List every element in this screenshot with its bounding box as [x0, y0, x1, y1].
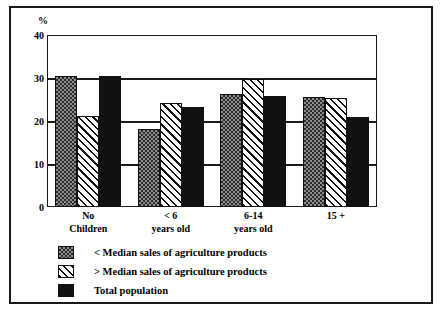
plot-wrapper: % 403020100 NoChildren< 6years old6-14ye… — [0, 0, 443, 319]
legend-item: < Median sales of agriculture products — [58, 243, 388, 261]
bar — [242, 79, 264, 207]
figure-container: % 403020100 NoChildren< 6years old6-14ye… — [0, 0, 443, 319]
x-tick-label-line1: 6-14 — [212, 210, 295, 223]
y-tick-label: 0 — [20, 202, 44, 213]
y-tick-label: 30 — [20, 73, 44, 84]
legend-item-label: < Median sales of agriculture products — [94, 247, 267, 258]
bar — [264, 96, 286, 207]
x-tick-label-line1: 15 + — [295, 210, 378, 223]
bar — [77, 116, 99, 207]
bar — [347, 117, 369, 207]
bar-group — [130, 35, 213, 207]
x-tick-label-line1: No — [47, 210, 130, 223]
legend-item: > Median sales of agriculture products — [58, 262, 388, 280]
x-tick-label: 6-14years old — [212, 210, 295, 235]
caption-bleed-text — [12, 306, 432, 319]
checkered-swatch — [58, 246, 74, 259]
bar — [55, 76, 77, 207]
x-tick-label-line2: years old — [130, 223, 213, 236]
bar — [138, 129, 160, 207]
bars-layer — [47, 35, 377, 207]
y-tick-label: 10 — [20, 159, 44, 170]
solid-swatch — [58, 284, 74, 297]
y-tick-label: 20 — [20, 116, 44, 127]
x-tick-label-line2: years old — [212, 223, 295, 236]
hatch-swatch — [58, 265, 74, 278]
x-tick-label: < 6years old — [130, 210, 213, 235]
x-tick-label: NoChildren — [47, 210, 130, 235]
bar-group — [47, 35, 130, 207]
x-tick-label: 15 + — [295, 210, 378, 223]
legend-item-label: > Median sales of agriculture products — [94, 266, 267, 277]
bar-group — [295, 35, 378, 207]
bar — [325, 98, 347, 207]
y-tick-label: 40 — [20, 30, 44, 41]
x-tick-label-line1: < 6 — [130, 210, 213, 223]
bar — [99, 76, 121, 207]
legend-item: Total population — [58, 281, 388, 299]
bar — [160, 103, 182, 207]
y-axis-unit-label: % — [38, 15, 48, 26]
bar-group — [212, 35, 295, 207]
bar — [303, 97, 325, 208]
bar — [182, 107, 204, 207]
chart-legend: < Median sales of agriculture products> … — [58, 243, 388, 300]
y-axis-tick-labels: 403020100 — [16, 35, 44, 207]
legend-item-label: Total population — [94, 285, 168, 296]
bar — [220, 94, 242, 207]
x-tick-label-line2: Children — [47, 223, 130, 236]
x-axis-tick-labels: NoChildren< 6years old6-14years old15 + — [47, 210, 377, 240]
